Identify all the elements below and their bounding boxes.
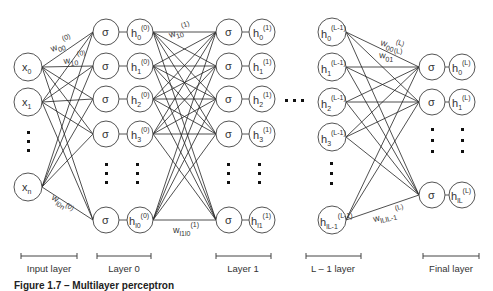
svg-text:σ: σ [225,214,232,226]
svg-text:σ: σ [428,61,435,73]
svg-text:σ: σ [225,60,232,72]
weight-w10-1: w10(1) [165,20,193,43]
label-layer-L-minus-1: L – 1 layer [311,263,355,274]
weight-w00-0: w00(0) [47,32,75,56]
svg-text:σ: σ [102,93,109,105]
input-node-x1: x1 [14,88,42,116]
sigma-label: σ [102,26,109,38]
svg-text:σ: σ [102,60,109,72]
final-ellipsis [431,128,464,153]
weight-wl1l0-1: wl1l0(1) [172,221,199,237]
label-input-layer: Input layer [27,263,71,274]
edges-layer0-to-layer1 [153,32,216,220]
svg-text:σ: σ [225,26,232,38]
svg-text:σ: σ [225,128,232,140]
input-node-xn: xn [14,173,42,201]
layer-brackets [21,253,479,259]
label-layer-1: Layer 1 [227,263,259,274]
layerLm1-ellipsis [330,162,333,185]
weight-wl0n-0: wl0n(0) [48,192,76,216]
svg-text:σ: σ [428,96,435,108]
svg-text:σ: σ [428,189,435,201]
layer0-ellipsis [105,163,139,184]
layer-1: σ h0(1) σ h1(1) σ h2(1) σ h3(1) σ hl1(1) [216,19,275,233]
layer1-ellipsis [227,163,261,184]
layer-L-minus-1: h0(L-1) h1(L-1) h2(L-1) h3(L-1) hlL-1(L-… [318,18,353,234]
figure-caption: Figure 1.7 – Multilayer perceptron [14,280,174,291]
input-node-x0: x0 [14,53,42,81]
sigma-h-connectors [119,32,449,220]
label-layer-0: Layer 0 [108,263,140,274]
input-ellipsis [27,131,30,152]
svg-text:σ: σ [225,93,232,105]
final-layer: σ h0(L) σ h1(L) σ hlL(L) [419,54,475,208]
weight-w10-0: w10(0) [61,49,87,68]
layer-0: σ h0(0) σ h1(0) σ h2(0) σ h3(0) σ hl0(0) [93,19,153,233]
layers-ellipsis [285,99,304,102]
svg-text:σ: σ [102,128,109,140]
label-final-layer: Final layer [429,263,473,274]
input-layer: x0 x1 xn [14,53,42,201]
svg-text:σ: σ [102,214,109,226]
weight-wlL-L: wlLlL-1(L) [370,203,406,227]
layer-labels: Input layer Layer 0 Layer 1 L – 1 layer … [27,263,473,274]
